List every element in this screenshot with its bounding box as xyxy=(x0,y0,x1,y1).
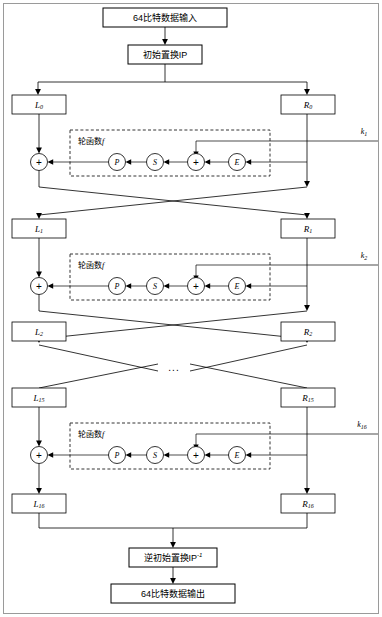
merge-to-inverse-ip xyxy=(39,513,307,548)
node-p-label-15: P xyxy=(114,451,120,460)
round-16-right-register: R16 xyxy=(281,494,335,513)
ellipsis-label: ... xyxy=(168,362,179,373)
xor-symbol-1: + xyxy=(36,281,42,292)
round-1-key-line: k2 xyxy=(193,251,378,281)
initial-permutation-node: 初始置换IP xyxy=(128,45,202,64)
round-0-main-xor: + xyxy=(31,114,48,171)
node-s-label-1: S xyxy=(153,282,157,291)
round-function-label-1: 轮函数f xyxy=(78,260,106,270)
node-xor-key-label-15: + xyxy=(193,450,199,461)
round-1-right-register: R1 xyxy=(281,219,335,238)
inverse-permutation-label: 逆初始置换IP-1 xyxy=(144,552,203,563)
round-2-left-register: L2 xyxy=(12,322,66,341)
diagram-canvas: 64比特数据输入 初始置换IP L0 R0 xyxy=(0,0,382,617)
arrow-inverse-ip-to-output xyxy=(170,567,176,584)
round-16-left-register: L16 xyxy=(12,494,66,513)
inverse-permutation-node: 逆初始置换IP-1 xyxy=(129,548,217,567)
initial-permutation-label: 初始置换IP xyxy=(143,49,188,60)
key-label-k16: k16 xyxy=(357,420,367,430)
round-1-left-register: L1 xyxy=(12,219,66,238)
round-function-label-15: 轮函数f xyxy=(78,429,106,439)
node-s-label-0: S xyxy=(153,158,157,167)
arrow-input-to-ip xyxy=(162,27,168,45)
round-15-right-register: R15 xyxy=(281,388,335,407)
split-ip-to-l0-r0 xyxy=(35,64,310,95)
des-flowchart-diagram: 64比特数据输入 初始置换IP L0 R0 xyxy=(0,0,382,617)
key-label-k1: k1 xyxy=(361,127,368,137)
round-0-left-register: L0 xyxy=(12,95,66,114)
key-label-k2: k2 xyxy=(361,251,368,261)
node-e-label-0: E xyxy=(234,158,240,167)
round-0-key-line: k1 xyxy=(193,127,378,157)
output-node: 64比特数据输出 xyxy=(111,584,235,603)
xor-symbol-0: + xyxy=(36,157,42,168)
xor-symbol-15: + xyxy=(36,450,42,461)
elided-rounds-crossover: ... xyxy=(39,345,307,388)
round-15-key-line: k16 xyxy=(193,420,378,450)
round-0-right-register: R0 xyxy=(281,95,335,114)
output-label: 64比特数据输出 xyxy=(141,588,205,599)
round-1-round-function: 轮函数f P S + E xyxy=(48,254,308,300)
round-1-right-feed xyxy=(304,238,310,311)
node-p-label-0: P xyxy=(114,158,120,167)
round-1-main-xor: + xyxy=(31,238,48,295)
round-2-right-register: R2 xyxy=(281,322,335,341)
crossover-1 xyxy=(36,295,310,344)
node-e-label-15: E xyxy=(234,451,240,460)
final-straight-legs xyxy=(36,407,310,494)
node-xor-key-label-1: + xyxy=(193,281,199,292)
round-function-label-0: 轮函数f xyxy=(78,136,106,146)
round-15-main-xor: + xyxy=(31,407,48,464)
node-e-label-1: E xyxy=(234,282,240,291)
round-0-round-function: 轮函数f P S + E xyxy=(48,130,308,176)
input-node: 64比特数据输入 xyxy=(103,8,227,27)
node-xor-key-label-0: + xyxy=(193,157,199,168)
round-15-left-register: L15 xyxy=(12,388,66,407)
node-s-label-15: S xyxy=(153,451,157,460)
input-label: 64比特数据输入 xyxy=(133,12,197,23)
round-0-right-feed xyxy=(304,114,310,187)
round-15-round-function: 轮函数f P S + E xyxy=(48,423,308,469)
node-p-label-1: P xyxy=(114,282,120,291)
crossover-0 xyxy=(36,171,310,220)
